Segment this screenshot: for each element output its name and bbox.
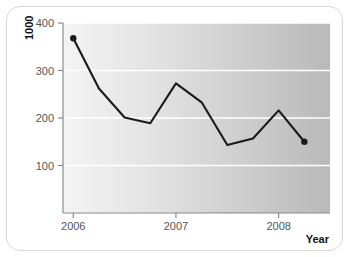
chart-figure: 100200300400 200620072008 1000 Year (0, 0, 349, 257)
y-tick-label-200: 200 (36, 112, 54, 124)
x-tick-label-2007: 2007 (164, 220, 188, 232)
y-axis-title: 1000 (23, 16, 35, 40)
x-axis-ticks: 200620072008 (61, 213, 291, 232)
y-tick-label-400: 400 (36, 17, 54, 29)
x-tick-label-2008: 2008 (266, 220, 290, 232)
y-tick-label-300: 300 (36, 65, 54, 77)
y-tick-label-100: 100 (36, 160, 54, 172)
plot-wrapper: 100200300400 200620072008 1000 Year (0, 0, 349, 257)
y-axis-ticks: 100200300400 (36, 17, 63, 172)
data-point-marker-last (301, 139, 307, 145)
x-tick-label-2006: 2006 (61, 220, 85, 232)
data-point-marker-first (70, 35, 76, 41)
x-axis-title: Year (306, 233, 330, 245)
line-chart-svg: 100200300400 200620072008 1000 Year (0, 0, 349, 257)
